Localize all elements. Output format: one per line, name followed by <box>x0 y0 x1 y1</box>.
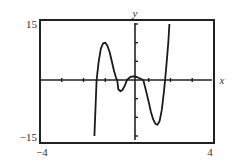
x-axis-label: x <box>219 74 225 86</box>
function-graph: 15 −15 −4 4 y x <box>0 0 236 161</box>
x-max-label: 4 <box>207 146 213 158</box>
y-max-label: 15 <box>26 18 38 30</box>
y-min-label: −15 <box>20 131 38 143</box>
x-min-label: −4 <box>36 146 48 158</box>
y-axis-label: y <box>132 7 138 19</box>
